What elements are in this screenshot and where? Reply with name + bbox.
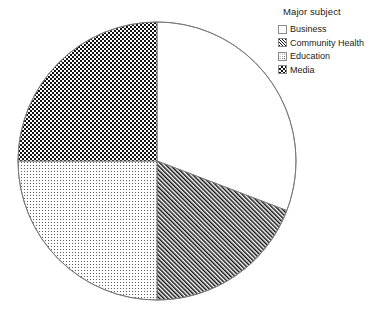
legend: Major subject BusinessCommunity HealthEd… — [278, 6, 383, 77]
pie-slice-education — [18, 161, 157, 300]
legend-swatch-blank-icon — [278, 25, 287, 34]
legend-item-label: Media — [290, 65, 315, 75]
legend-swatch-checkerboard-icon — [278, 65, 287, 74]
legend-item-label: Education — [290, 51, 330, 61]
legend-swatch-diagonal-hatch-icon — [278, 38, 287, 47]
legend-swatch-dots-icon — [278, 52, 287, 61]
legend-item-media[interactable]: Media — [278, 64, 383, 76]
legend-title: Major subject — [283, 6, 383, 17]
legend-items: BusinessCommunity HealthEducationMedia — [278, 23, 383, 76]
pie-chart-figure: Major subject BusinessCommunity HealthEd… — [0, 0, 385, 322]
legend-item-business[interactable]: Business — [278, 23, 383, 35]
legend-item-community-health[interactable]: Community Health — [278, 37, 383, 49]
legend-item-label: Community Health — [290, 38, 364, 48]
legend-item-label: Business — [290, 24, 327, 34]
pie-slice-media — [18, 22, 157, 161]
pie-slices — [18, 22, 296, 300]
legend-item-education[interactable]: Education — [278, 50, 383, 62]
